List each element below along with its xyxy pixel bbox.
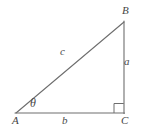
angle-label-theta: θ: [30, 97, 36, 109]
vertex-label-b: B: [122, 5, 129, 16]
side-label-b: b: [62, 115, 68, 126]
vertex-label-a: A: [12, 115, 19, 126]
side-label-c: c: [60, 46, 65, 57]
vertex-label-c: C: [121, 115, 128, 126]
right-angle-marker-icon: [114, 104, 124, 114]
side-label-a: a: [124, 56, 130, 67]
right-triangle-figure: A B C a b c θ: [0, 0, 145, 131]
